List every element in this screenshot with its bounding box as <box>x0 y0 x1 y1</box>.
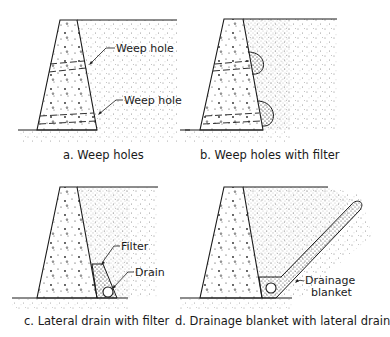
caption-b: b. Weep holes with filter <box>200 149 339 162</box>
caption-a: a. Weep holes <box>63 149 144 162</box>
callout-weep-hole-lower: Weep hole <box>124 95 182 107</box>
drain-pipe <box>103 287 113 297</box>
callout-drain: Drain <box>135 267 165 279</box>
lateral-drain-pipe <box>266 283 276 293</box>
foundation-soil <box>20 131 177 142</box>
caption-c: c. Lateral drain with filter <box>24 315 169 328</box>
panel-b-weep-holes-with-filter <box>185 19 337 142</box>
callout-drainage-blanket-line2: blanket <box>311 287 352 299</box>
caption-d: d. Drainage blanket with lateral drain <box>175 315 390 328</box>
callout-weep-hole-upper: Weep hole <box>116 43 174 55</box>
callout-filter: Filter <box>121 241 148 253</box>
panel-a-weep-holes <box>18 20 190 142</box>
